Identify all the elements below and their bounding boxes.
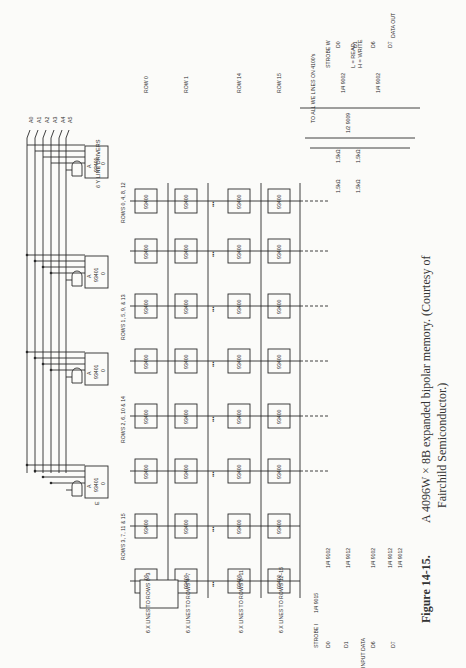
svg-text:93401: 93401 <box>93 364 99 379</box>
svg-text:93400: 93400 <box>276 244 282 259</box>
svg-text:93400: 93400 <box>276 299 282 314</box>
svg-text:93400: 93400 <box>236 409 242 424</box>
svg-text:0: 0 <box>100 369 106 372</box>
svg-text:ROWS 2, 6, 10 & 14: ROWS 2, 6, 10 & 14 <box>120 396 126 443</box>
svg-text:93400: 93400 <box>236 464 242 479</box>
svg-text:1/4 9012: 1/4 9012 <box>397 548 403 568</box>
svg-text:A: A <box>86 484 92 488</box>
svg-text:A: A <box>86 274 92 278</box>
svg-text:93400: 93400 <box>183 194 189 209</box>
svg-text:•••: ••• <box>210 581 216 587</box>
svg-text:D0: D0 <box>335 41 341 48</box>
svg-text:A2: A2 <box>44 117 50 123</box>
svg-text:ROW 1: ROW 1 <box>183 76 189 93</box>
svg-text:93400: 93400 <box>143 194 149 209</box>
address-bus-y <box>27 130 69 473</box>
svg-text:•••: ••• <box>210 416 216 422</box>
svg-text:1.5kΩ: 1.5kΩ <box>355 179 361 193</box>
svg-text:•••: ••• <box>210 471 216 477</box>
svg-text:0: 0 <box>100 272 106 275</box>
svg-text:6 X LINES TO ROWS 12–15: 6 X LINES TO ROWS 12–15 <box>278 567 284 633</box>
svg-text:D6: D6 <box>370 41 376 48</box>
svg-text:93400: 93400 <box>236 299 242 314</box>
svg-text:•••: ••• <box>210 361 216 367</box>
data-in-section: 1/4 9102 1/4 9012 1/4 9102 1/4 9012 1/4 … <box>313 548 403 668</box>
svg-text:93400: 93400 <box>143 464 149 479</box>
svg-text:1/4 9012: 1/4 9012 <box>345 548 351 568</box>
svg-text:Figure 14-15.: Figure 14-15. <box>419 555 433 623</box>
svg-text:ROW 14: ROW 14 <box>236 73 242 93</box>
svg-text:DATA OUT: DATA OUT <box>390 12 396 38</box>
svg-text:1/4 9002: 1/4 9002 <box>375 73 381 93</box>
svg-text:93400: 93400 <box>183 244 189 259</box>
y-group-labels: ROWS 0, 4, 8, 12 ROWS 1, 5, 9, & 13 ROWS… <box>120 182 126 560</box>
svg-text:INPUT DATA: INPUT DATA <box>360 637 366 668</box>
svg-text:ROWS 3, 7, 11 & 15: ROWS 3, 7, 11 & 15 <box>120 513 126 560</box>
svg-text:E: E <box>94 501 100 505</box>
svg-text:93400: 93400 <box>183 519 189 534</box>
svg-text:93400: 93400 <box>236 354 242 369</box>
svg-text:93400: 93400 <box>236 244 242 259</box>
svg-text:93400: 93400 <box>276 409 282 424</box>
svg-text:STROBE I: STROBE I <box>313 624 319 648</box>
svg-text:A0: A0 <box>28 117 34 123</box>
svg-text:1.5kΩ: 1.5kΩ <box>355 149 361 163</box>
svg-text:A: A <box>86 371 92 375</box>
svg-text:D1: D1 <box>343 641 349 648</box>
svg-text:1/2 9009: 1/2 9009 <box>345 113 351 133</box>
svg-text:ROW 0: ROW 0 <box>143 76 149 93</box>
svg-text:93400: 93400 <box>183 299 189 314</box>
svg-text:1/4 9012: 1/4 9012 <box>387 548 393 568</box>
svg-text:ROW 15: ROW 15 <box>276 73 282 93</box>
svg-text:STROBE W: STROBE W <box>325 40 331 68</box>
y-drivers-label: 6 Y LINE DRIVERS <box>95 139 101 188</box>
svg-text:93400: 93400 <box>183 464 189 479</box>
svg-text:D7: D7 <box>390 641 396 648</box>
svg-text:A4: A4 <box>60 117 66 123</box>
svg-text:93400: 93400 <box>276 464 282 479</box>
svg-text:93400: 93400 <box>143 519 149 534</box>
svg-text:TO ALL WE LINES ON 4100's: TO ALL WE LINES ON 4100's <box>310 53 316 123</box>
memory-array: 93400 93400 93400 93400 93400 93400 9340… <box>130 183 330 598</box>
data-out-section: L = READ H = WRITE 1/2 9009 TO ALL WE LI… <box>300 12 420 193</box>
svg-text:•••: ••• <box>210 251 216 257</box>
svg-text:A1: A1 <box>36 117 42 123</box>
row-labels: ROW 0 ROW 1 ROW 14 ROW 15 <box>143 73 282 93</box>
svg-text:1.5kΩ: 1.5kΩ <box>335 149 341 163</box>
svg-text:ROWS 1, 5, 9, & 13: ROWS 1, 5, 9, & 13 <box>120 294 126 340</box>
svg-text:93400: 93400 <box>143 299 149 314</box>
svg-text:•••: ••• <box>210 201 216 207</box>
svg-text:1/4 9002: 1/4 9002 <box>340 73 346 93</box>
svg-text:A: A <box>86 164 92 168</box>
svg-text:6 X LINES TO ROWS 4–7: 6 X LINES TO ROWS 4–7 <box>185 573 191 633</box>
svg-text:93400: 93400 <box>183 354 189 369</box>
svg-text:93400: 93400 <box>276 519 282 534</box>
svg-text:A5: A5 <box>67 117 73 123</box>
svg-text:1.5kΩ: 1.5kΩ <box>335 179 341 193</box>
svg-text:93400: 93400 <box>236 194 242 209</box>
svg-text:6 X LINES TO ROWS 8–11: 6 X LINES TO ROWS 8–11 <box>238 570 244 633</box>
svg-text:D1: D1 <box>352 41 358 48</box>
svg-text:•••: ••• <box>210 306 216 312</box>
svg-text:93401: 93401 <box>93 267 99 282</box>
svg-text:93400: 93400 <box>276 354 282 369</box>
svg-text:D0: D0 <box>325 641 331 648</box>
svg-text:0: 0 <box>100 482 106 485</box>
svg-text:D6: D6 <box>370 641 376 648</box>
svg-text:1/4 9102: 1/4 9102 <box>370 548 376 568</box>
svg-text:93400: 93400 <box>143 409 149 424</box>
svg-text:1/4 9102: 1/4 9102 <box>325 548 331 568</box>
svg-text:1/4 9015: 1/4 9015 <box>313 593 319 613</box>
svg-text:93400: 93400 <box>276 194 282 209</box>
svg-text:93400: 93400 <box>236 519 242 534</box>
svg-text:93401: 93401 <box>93 477 99 492</box>
svg-text:ROWS 0, 4, 8, 12: ROWS 0, 4, 8, 12 <box>120 182 126 223</box>
y-driver-chips: A 93401 0 E A 93401 0 A 93401 0 A 93401 <box>26 145 108 505</box>
svg-text:93400: 93400 <box>183 409 189 424</box>
svg-text:A 4096W × 8B expanded bipolar: A 4096W × 8B expanded bipolar memory. (C… <box>419 256 433 523</box>
svg-text:93400: 93400 <box>143 244 149 259</box>
svg-text:D7: D7 <box>387 41 393 48</box>
svg-text:A3: A3 <box>52 117 58 123</box>
address-labels-y: A0 A1 A2 A3 A4 A5 <box>28 117 73 123</box>
svg-text:93400: 93400 <box>143 354 149 369</box>
